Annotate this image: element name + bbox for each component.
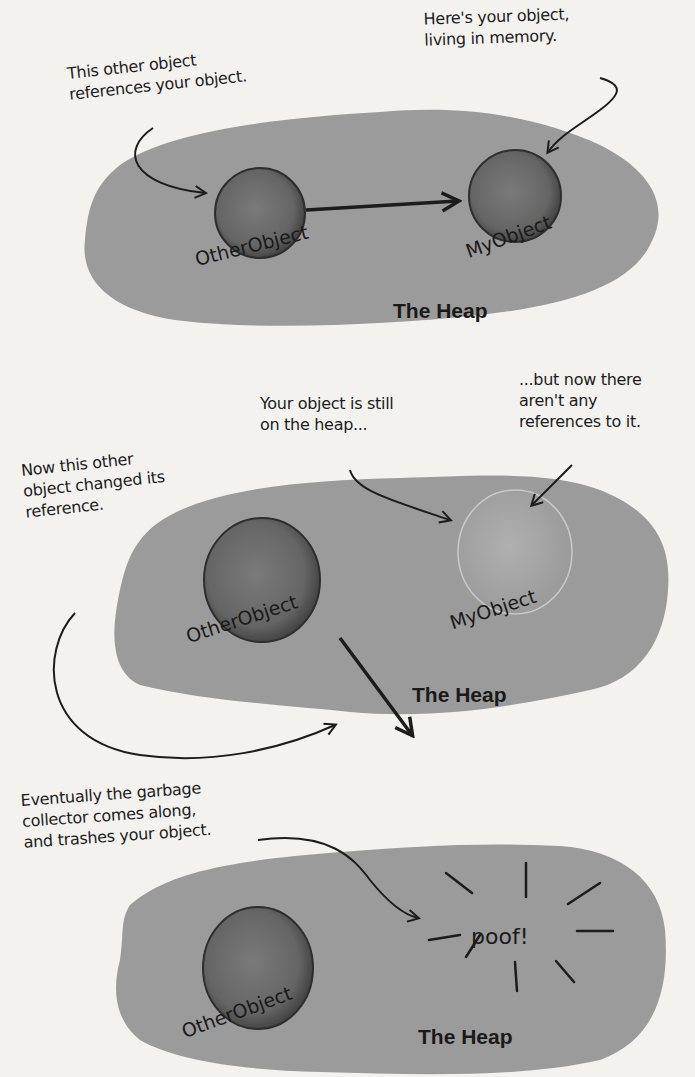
note-garbage-collector: Eventually the garbage collector comes a… — [20, 777, 212, 853]
heap-label: The Heap — [412, 683, 507, 707]
note-still-on-heap: Your object is still on the heap... — [260, 393, 393, 435]
heap-label: The Heap — [418, 1025, 513, 1049]
panel-3 — [116, 838, 666, 1074]
note-your-object: Here's your object, living in memory. — [423, 3, 570, 50]
heap-blob — [116, 844, 666, 1074]
poof-text: poof! — [471, 924, 528, 949]
heap-blob — [114, 476, 668, 715]
panel-1 — [84, 78, 658, 326]
heap-blob — [84, 110, 658, 326]
diagram-canvas — [0, 0, 695, 1077]
heap-label: The Heap — [393, 299, 488, 323]
note-no-references: ...but now there aren't any references t… — [519, 369, 642, 432]
